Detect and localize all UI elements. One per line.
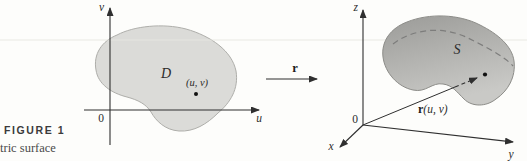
- x-axis: [340, 125, 363, 147]
- y-axis: [363, 125, 513, 142]
- surface-s-shape: [383, 16, 515, 105]
- figure-caption-block: FIGURE 1 tric surface: [0, 124, 65, 155]
- uv-point-label: (u, v): [186, 77, 209, 89]
- y-axis-label: y: [507, 148, 514, 161]
- mapping-arrow: r: [266, 61, 317, 79]
- surface-point-dot: [483, 72, 487, 76]
- vector-r-label-args: (u, v): [423, 103, 447, 116]
- uv-point-dot: [194, 92, 198, 96]
- region-d-label: D: [160, 66, 171, 81]
- xyz-origin-label: 0: [352, 113, 358, 125]
- x-axis-label: x: [327, 140, 334, 152]
- figure-caption-text: tric surface: [0, 141, 56, 155]
- surface-s-label: S: [454, 42, 461, 57]
- uv-origin-label: 0: [98, 112, 104, 124]
- z-axis-label: z: [353, 1, 359, 13]
- vector-r-label: r(u, v): [418, 102, 448, 116]
- textbook-figure: v u 0 D (u, v) r z: [0, 0, 527, 161]
- xyz-space-diagram: z 0 x y S r(u, v): [327, 1, 514, 161]
- figure-number-label: FIGURE 1: [4, 124, 65, 136]
- map-r-label: r: [292, 61, 298, 75]
- figure-canvas: v u 0 D (u, v) r z: [0, 0, 527, 161]
- u-axis-label: u: [256, 112, 262, 124]
- v-axis-label: v: [99, 1, 105, 13]
